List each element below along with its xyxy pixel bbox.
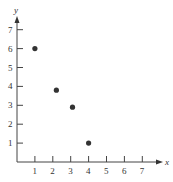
y-tick-label: 4 [8, 81, 13, 91]
x-axis-arrow-icon [156, 160, 163, 165]
data-point [32, 46, 37, 51]
y-axis-label: y [13, 5, 18, 15]
y-tick-label: 5 [8, 63, 13, 73]
x-tick-label: 1 [32, 166, 37, 176]
data-point [86, 141, 91, 146]
y-tick-label: 7 [8, 25, 13, 35]
x-tick-label: 6 [122, 166, 127, 176]
y-axis-arrow-icon [15, 16, 20, 23]
x-tick-label: 4 [86, 166, 91, 176]
y-tick-label: 1 [8, 138, 13, 148]
y-tick-label: 2 [8, 119, 13, 129]
y-tick-label: 3 [8, 100, 13, 110]
scatter-chart: xy12345671234567 [0, 0, 173, 182]
data-point [54, 88, 59, 93]
data-point [70, 105, 75, 110]
x-axis-label: x [164, 157, 169, 167]
x-tick-label: 5 [104, 166, 109, 176]
x-tick-label: 7 [140, 166, 145, 176]
x-tick-label: 3 [68, 166, 73, 176]
x-tick-label: 2 [50, 166, 55, 176]
y-tick-label: 6 [8, 44, 13, 54]
